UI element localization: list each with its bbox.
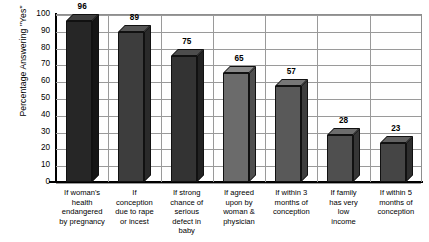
bar-front-face (380, 143, 406, 182)
y-axis-tick-label: 50 (26, 94, 50, 102)
bar-front-face (171, 56, 197, 182)
bar-front-face (275, 86, 301, 182)
bar-value-label: 89 (108, 13, 160, 22)
bar-side-face (249, 66, 256, 182)
bar-side-face (197, 49, 204, 182)
bar-value-label: 65 (213, 54, 265, 63)
x-axis-category-label: Ifconceptiondue to rapeor incest (108, 188, 160, 226)
bar[interactable] (223, 73, 249, 182)
y-axis-tick-labels: 1009080706050403020100 (26, 14, 50, 182)
y-axis-tick-label: 0 (26, 178, 50, 186)
bar-value-label: 75 (161, 37, 213, 46)
y-axis-tick-label: 70 (26, 60, 50, 68)
y-axis-tick-label: 20 (26, 144, 50, 152)
x-axis-category-label: If familyhas verylowincome (317, 188, 369, 226)
bar-side-face (92, 14, 99, 182)
x-axis-category-label: If woman'shealthendangeredby pregnancy (56, 188, 108, 226)
bar[interactable] (66, 21, 92, 182)
bar-group[interactable]: 57 (265, 14, 317, 182)
bar[interactable] (171, 56, 197, 182)
bar-front-face (118, 32, 144, 182)
bar[interactable] (327, 135, 353, 182)
bar-chart: Percentage Answering "Yes" 1009080706050… (0, 0, 429, 242)
bar[interactable] (118, 32, 144, 182)
plot-area: 96897565572823 (56, 14, 422, 182)
x-axis-category-label: If strongchance ofseriousdefect inbaby (161, 188, 213, 236)
x-axis-category-label: If within 5months ofconception (370, 188, 422, 217)
bar-group[interactable]: 23 (370, 14, 422, 182)
bar-front-face (327, 135, 353, 182)
y-axis-tick-label: 100 (26, 10, 50, 18)
bar-front-face (223, 73, 249, 182)
gridline-horizontal (56, 183, 421, 184)
y-axis-tick-label: 40 (26, 111, 50, 119)
y-axis-tick-label: 90 (26, 27, 50, 35)
y-axis-tick-label: 30 (26, 128, 50, 136)
bar-side-face (301, 79, 308, 182)
y-axis-tick-label: 80 (26, 44, 50, 52)
x-axis-category-label: If agreedupon bywoman &physician (213, 188, 265, 226)
bar-value-label: 57 (265, 67, 317, 76)
bar-value-label: 28 (317, 116, 369, 125)
y-axis-tick-label: 10 (26, 161, 50, 169)
bar-group[interactable]: 96 (56, 14, 108, 182)
bar-side-face (353, 128, 360, 182)
bar-side-face (406, 136, 413, 182)
bar-group[interactable]: 65 (213, 14, 265, 182)
bar[interactable] (380, 143, 406, 182)
x-axis-category-labels: If woman'shealthendangeredby pregnancyIf… (56, 188, 422, 242)
bar-front-face (66, 21, 92, 182)
bar-value-label: 23 (370, 124, 422, 133)
bar[interactable] (275, 86, 301, 182)
bar-group[interactable]: 89 (108, 14, 160, 182)
bar-side-face (144, 25, 151, 182)
bar-group[interactable]: 75 (161, 14, 213, 182)
y-axis-tick-label: 60 (26, 77, 50, 85)
x-axis-category-label: If within 3months ofconception (265, 188, 317, 217)
bar-group[interactable]: 28 (317, 14, 369, 182)
bar-value-label: 96 (56, 2, 108, 11)
